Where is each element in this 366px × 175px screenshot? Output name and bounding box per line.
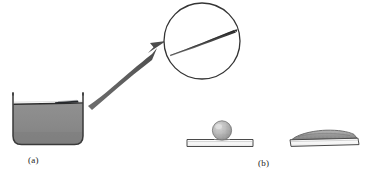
panel-label-b: (b) xyxy=(258,158,269,168)
droplet-texture xyxy=(213,121,231,139)
figure-canvas xyxy=(0,0,366,175)
magnifier-group xyxy=(164,3,240,79)
beaker-group xyxy=(13,93,83,145)
droplet-on-substrate-group xyxy=(187,121,253,147)
substrate-right xyxy=(290,138,359,146)
magnifier-circle xyxy=(164,3,240,79)
liquid-shading xyxy=(13,132,83,144)
callout-arrowhead xyxy=(148,41,166,53)
callout-arrow-group xyxy=(88,41,166,110)
callout-arrow-body xyxy=(88,48,157,110)
figure-container: (a) (b) xyxy=(0,0,366,175)
panel-label-a: (a) xyxy=(28,155,39,165)
spread-film-group xyxy=(290,130,359,146)
droplet-highlight xyxy=(215,124,222,129)
